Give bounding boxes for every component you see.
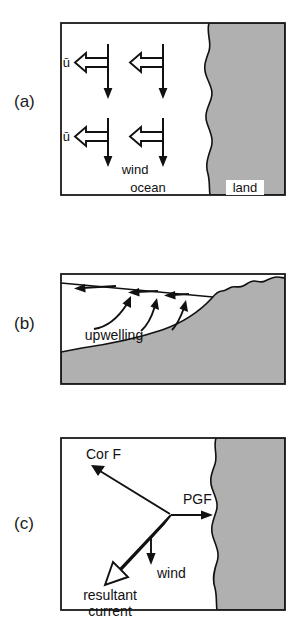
panel-a-group: ū ū wind ocean land <box>61 23 285 195</box>
panel-c-land-group <box>211 438 285 610</box>
panel-a-ubar-label-top: ū <box>63 55 70 70</box>
panel-c-coriolis-label: Cor F <box>86 446 121 462</box>
panel-a-land-group <box>205 23 285 195</box>
panel-a-ubar-label-bottom: ū <box>63 129 70 144</box>
panel-a-land-label: land <box>233 180 258 195</box>
panel-c-resultant-label-line1: resultant <box>83 587 137 603</box>
panel-c-resultant-label-line2: current <box>88 603 132 619</box>
panel-c-wind-label: wind <box>156 565 186 581</box>
panel-c-landmass <box>211 438 285 610</box>
panel-c-group: Cor F PGF wind resultant current <box>61 438 285 619</box>
panel-b-group: upwelling <box>61 274 285 384</box>
panel-a-ocean-label: ocean <box>130 180 165 195</box>
panel-c-pgf-label: PGF <box>183 491 212 507</box>
figure-root: (a) (b) (c) <box>0 0 297 629</box>
panel-a-landmass <box>205 23 285 195</box>
figure-svg: ū ū wind ocean land <box>0 0 297 629</box>
panel-b-upwelling-label: upwelling <box>85 327 143 343</box>
panel-a-wind-label: wind <box>121 162 149 177</box>
panel-b-surface-arrow-shaft-2 <box>136 291 158 292</box>
